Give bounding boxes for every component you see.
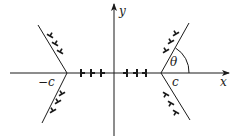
minus-c-label: −c <box>38 75 55 89</box>
c-label: c <box>172 75 179 89</box>
dislocation-diagram: y x −c c θ <box>0 0 237 138</box>
theta-label: θ <box>170 55 178 69</box>
x-axis-label: x <box>220 75 227 89</box>
right-upper-dislocations <box>161 29 179 53</box>
right-lower-dislocations <box>161 92 179 117</box>
y-axis-label: y <box>118 4 126 18</box>
theta-arc <box>176 48 190 73</box>
left-lower-dislocations <box>48 89 65 113</box>
x-axis-dislocations-left <box>81 69 105 77</box>
x-axis-dislocations-right <box>123 69 146 77</box>
left-upper-dislocations <box>47 31 65 54</box>
